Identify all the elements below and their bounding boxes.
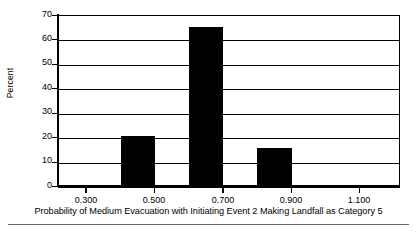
x-tick-mark-0900 xyxy=(291,187,292,193)
x-tick-label-0900: 0.900 xyxy=(261,195,321,205)
gridline-10 xyxy=(59,163,399,164)
x-tick-label-1100: 1.100 xyxy=(329,195,389,205)
y-tick-label-50: 50 xyxy=(26,58,52,67)
gridline-60 xyxy=(59,40,399,41)
x-tick-mark-0500 xyxy=(154,187,155,193)
y-tick-label-60: 60 xyxy=(26,34,52,43)
bar-bin-2 xyxy=(189,27,223,185)
y-tick-label-30: 30 xyxy=(26,107,52,116)
y-tick-label-40: 40 xyxy=(26,83,52,92)
x-tick-mark-0300 xyxy=(85,187,86,193)
x-tick-label-0300: 0.300 xyxy=(56,195,116,205)
bar-bin-3 xyxy=(257,148,291,185)
y-axis-title: Percent xyxy=(5,53,15,113)
gridline-20 xyxy=(59,138,399,139)
x-axis-line xyxy=(58,186,400,188)
x-tick-label-0700: 0.700 xyxy=(193,195,253,205)
y-tick-label-20: 20 xyxy=(26,132,52,141)
x-tick-label-0500: 0.500 xyxy=(124,195,184,205)
y-axis-line xyxy=(57,14,59,187)
gridline-50 xyxy=(59,65,399,66)
y-tick-label-70: 70 xyxy=(26,10,52,19)
x-axis-title: Probability of Medium Evacuation with In… xyxy=(0,206,417,217)
x-tick-mark-1100 xyxy=(359,187,360,193)
y-tick-label-0: 0 xyxy=(26,181,52,190)
gridline-30 xyxy=(59,114,399,115)
histogram-figure: Percent 70 60 50 40 30 20 10 0 0.300 0.5… xyxy=(0,0,417,235)
y-tick-label-10: 10 xyxy=(26,156,52,165)
gridline-40 xyxy=(59,89,399,90)
footer-divider xyxy=(8,224,409,225)
bar-bin-1 xyxy=(121,136,155,185)
x-tick-mark-0700 xyxy=(222,187,223,193)
plot-area xyxy=(58,15,400,186)
